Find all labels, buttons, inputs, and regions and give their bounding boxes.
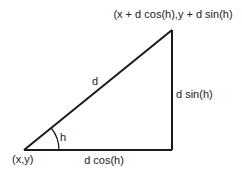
horizontal-edge-label: d cos(h) — [84, 154, 124, 166]
triangle-diagram: (x + d cos(h),y + d sin(h) d d sin(h) h … — [0, 0, 242, 174]
angle-arc — [51, 128, 59, 150]
origin-vertex-label: (x,y) — [12, 153, 33, 165]
hypotenuse-label: d — [92, 75, 98, 87]
hypotenuse-edge — [24, 30, 172, 150]
vertical-edge-label: d sin(h) — [176, 88, 213, 100]
angle-label: h — [60, 131, 66, 143]
top-vertex-label: (x + d cos(h),y + d sin(h) — [113, 8, 232, 20]
